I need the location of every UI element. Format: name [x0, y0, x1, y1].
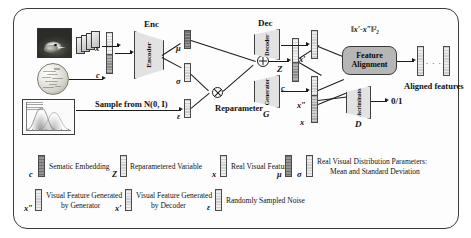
feature-alignment-label: Feature Alignment: [352, 52, 388, 69]
legend-bar-epsilon: [215, 189, 222, 211]
legend-text-x-double-prime-line1: Visual Feature Generated: [46, 192, 122, 200]
input-bar-c-segment: [107, 55, 112, 73]
legend-text-x-prime-line2: by Decoder: [151, 202, 186, 210]
arrow-alignment-to-aligned: [412, 58, 416, 62]
legend-symbol-sigma: σ: [297, 170, 302, 179]
sigma-bar: [184, 63, 191, 82]
input-bar-x-segment: [107, 33, 112, 55]
legend-bar-z: [120, 155, 127, 177]
decoder-group-label: Dec: [258, 19, 273, 28]
plot-y-axis: [26, 102, 27, 131]
legend-bar-x: [220, 155, 227, 177]
diagram-canvas: x c Enc Encoder μ σ ε Sample from N(0, I…: [0, 0, 471, 238]
legend-symbol-z: Z: [112, 170, 117, 179]
label-z: Z: [277, 65, 283, 74]
legend-symbol-x-prime: x′: [115, 204, 122, 213]
legend-bar-x-double-prime: [35, 189, 42, 211]
legend-text-c: Sematic Embedding: [49, 163, 110, 171]
label-x-double-prime: x″: [297, 101, 306, 110]
aligned-features-label: Aligned features: [404, 82, 464, 91]
label-x-prime: x′: [299, 55, 306, 64]
line-add-to-z: [269, 61, 289, 62]
discriminator-short-label: D: [355, 120, 362, 129]
arrow-sphere-to-inputbar: [102, 76, 106, 80]
legend-bar-c: [38, 155, 45, 177]
label-x-real: x: [300, 118, 304, 127]
alignment-loss-formula: ‖x′-x″‖²₂: [351, 26, 379, 34]
legend-text-sigma-line1: Real Visual Distribution Parameters:: [317, 158, 427, 166]
latent-bar-z-segment: [293, 39, 298, 63]
legend-bar-sigma: [306, 155, 313, 177]
label-epsilon: ε: [177, 113, 180, 121]
multiply-operator-node: [212, 87, 223, 98]
legend-symbol-c: c: [29, 170, 33, 179]
encoder-group-label: Enc: [144, 20, 159, 29]
generator-short-label: G: [263, 110, 270, 119]
discriminator-output-label: 0/1: [391, 97, 403, 106]
line-decoder-to-xprime: [281, 45, 308, 46]
arrow-cnn-to-inputbar: [117, 43, 121, 47]
sample-from-normal-note: Sample from N(0, I): [95, 100, 168, 109]
legend-bar-x-prime: [125, 189, 132, 211]
arrow-inputbar-to-encoder: [130, 50, 134, 54]
label-x-input: x: [95, 44, 99, 53]
arrow-add-to-z: [287, 58, 291, 62]
arrow-plot-to-epsilon: [179, 107, 183, 111]
legend-text-x-double-prime-line2: by Generator: [61, 202, 100, 210]
mu-bar: [184, 30, 191, 49]
aligned-feature-bar-1: [417, 46, 424, 76]
arrow-generator-to-xdoubleprime: [306, 88, 310, 92]
line-plot-to-epsilon: [76, 110, 181, 111]
semantic-word-sphere: [37, 63, 69, 95]
encoder-block-label: Encoder: [145, 42, 153, 67]
gaussian-distribution-plot: [22, 99, 75, 135]
feature-alignment-block: Feature Alignment: [342, 46, 397, 75]
aligned-features-ellipsis: . . .: [426, 57, 442, 66]
bird-photo: [37, 28, 72, 58]
legend-text-z: Reparametered Variable: [130, 163, 202, 171]
discriminator-block-label: Discriminator: [356, 86, 362, 119]
legend-symbol-epsilon: ε: [207, 204, 210, 212]
bird-eye: [54, 44, 57, 47]
bird-beak: [58, 47, 65, 49]
input-feature-bar-x-c: [106, 32, 113, 74]
aligned-feature-bar-2: [443, 46, 450, 76]
generator-block-label: Generator: [264, 78, 270, 105]
line-sphere-to-inputbar: [69, 79, 103, 80]
label-sigma: σ: [176, 77, 181, 86]
legend-text-epsilon: Randomly Sampled Noise: [226, 197, 305, 205]
xprime-bar: [311, 30, 318, 59]
latent-bar-c-segment: [293, 63, 298, 81]
plot-bell-curve: [26, 104, 71, 131]
legend-symbol-x: x: [212, 170, 216, 179]
legend-bar-mu: [285, 155, 292, 177]
arrow-decoder-to-xprime: [306, 42, 310, 46]
decoder-block-label: Decoder: [264, 34, 270, 55]
legend-symbol-mu: μ: [277, 170, 282, 179]
legend-symbol-x-double-prime: x″: [24, 204, 33, 213]
reparameter-label: Reparameter: [215, 104, 263, 113]
epsilon-bar: [184, 99, 191, 118]
arrow-discriminator-to-output: [385, 98, 389, 102]
label-mu: μ: [176, 44, 181, 53]
legend-text-sigma-line2: Mean and Standard Deviation: [330, 168, 420, 176]
legend-text-x-prime-line1: Visual Feature Generated: [136, 192, 212, 200]
line-generator-to-xdoubleprime: [281, 91, 308, 92]
